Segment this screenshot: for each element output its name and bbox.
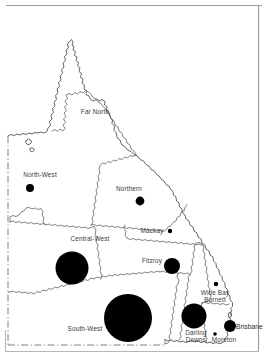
coastline-path (70, 40, 233, 344)
proportional-symbols (26, 184, 236, 342)
gulf-island-south-path (30, 148, 34, 152)
boundary-central-west-east-path (94, 227, 102, 280)
boundary-northern-east-path (163, 205, 187, 232)
symbol-circle-brisbane (224, 320, 236, 332)
gulf-coast-path (8, 42, 70, 137)
symbol-circle-central-west (56, 252, 89, 285)
symbol-circle-northern (136, 197, 145, 206)
boundary-mackay-fitzroy-path (127, 238, 202, 246)
symbol-circle-moreton (213, 332, 217, 336)
symbol-circle-mackay (168, 229, 172, 233)
symbol-circle-wide-bay-burnett (214, 282, 218, 286)
boundary-darling-southwest-path (165, 273, 179, 344)
boundary-fn-northern-path (91, 155, 136, 225)
boundary-mackay-west-path (124, 225, 127, 238)
map-canvas (0, 0, 271, 358)
symbol-circle-darling-downs (182, 304, 207, 329)
symbol-circle-south-west (104, 294, 152, 342)
boundary-fitzroy-widebay-path (190, 243, 202, 275)
symbol-circle-fitzroy (164, 258, 180, 274)
queensland-proportional-symbol-map: Far NorthNorth-WestNorthernMackayCentral… (0, 0, 271, 358)
boundary-central-west-north-path (10, 221, 94, 229)
boundary-widebay-moreton-path (202, 302, 229, 305)
symbol-circle-north-west (26, 184, 34, 192)
gulf-island-north-path (26, 139, 32, 145)
boundary-northern-mackay-path (91, 225, 163, 232)
